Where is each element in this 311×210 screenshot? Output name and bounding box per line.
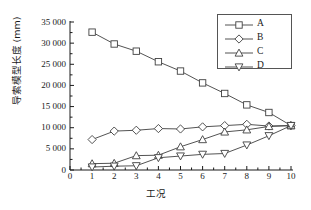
series-line-B	[92, 124, 291, 139]
marker-square	[222, 90, 228, 96]
marker-diamond	[110, 127, 118, 135]
legend-label: B	[257, 32, 263, 42]
x-axis-tick-label: 1	[82, 172, 102, 181]
marker-diamond	[235, 34, 243, 42]
marker-diamond	[88, 135, 96, 143]
marker-square	[199, 80, 205, 86]
marker-square	[155, 59, 161, 65]
x-axis-tick-label: 2	[104, 172, 124, 181]
series-C	[88, 122, 295, 167]
x-axis-tick-label: 6	[193, 172, 213, 181]
marker-triangle-down	[265, 133, 273, 140]
x-axis-title: 工况	[0, 186, 311, 200]
marker-square	[266, 109, 272, 115]
x-axis-tick-label: 7	[215, 172, 235, 181]
series-D	[88, 122, 295, 170]
series-line-C	[92, 126, 291, 164]
marker-diamond	[199, 123, 207, 131]
marker-triangle-up	[177, 143, 185, 150]
x-axis-tick-label: 5	[171, 172, 191, 181]
marker-diamond	[132, 126, 140, 134]
marker-square	[244, 102, 250, 108]
x-axis-tick-label: 4	[148, 172, 168, 181]
legend-item-d: D	[218, 58, 291, 71]
legend-item-c: C	[218, 44, 291, 57]
chart-figure: 导索模型长度 (mm) 05 00010 00015 00020 00025 0…	[0, 0, 311, 210]
legend-item-b: B	[218, 30, 291, 43]
x-axis-tick-label: 0	[60, 172, 80, 181]
legend-label: A	[257, 18, 264, 28]
legend-marker-diamond	[224, 31, 254, 43]
legend-label: C	[257, 46, 263, 56]
legend-marker-triangle-up	[224, 45, 254, 57]
marker-square	[89, 29, 95, 35]
marker-diamond	[154, 124, 162, 132]
legend-marker-triangle-down	[224, 59, 254, 71]
series-B	[88, 120, 295, 143]
marker-triangle-down	[243, 142, 251, 149]
marker-square	[111, 41, 117, 47]
marker-diamond	[176, 125, 184, 133]
marker-square	[236, 21, 242, 27]
marker-square	[133, 48, 139, 54]
marker-square	[177, 68, 183, 74]
x-axis-tick-label: 3	[126, 172, 146, 181]
legend: ABCD	[217, 14, 292, 69]
legend-label: D	[257, 60, 264, 70]
x-axis-tick-label: 10	[281, 172, 301, 181]
x-axis-tick-label: 8	[237, 172, 257, 181]
marker-triangle-up	[199, 136, 207, 143]
legend-item-a: A	[218, 16, 291, 29]
x-axis-tick-label: 9	[259, 172, 279, 181]
legend-marker-square	[224, 17, 254, 29]
